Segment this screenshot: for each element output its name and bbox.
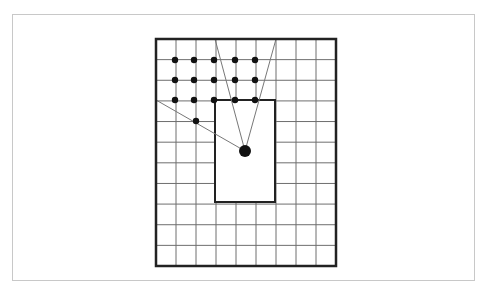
grid-diagram [0, 0, 487, 290]
visible-point [232, 97, 238, 103]
visible-point [211, 77, 217, 83]
visible-point [211, 57, 217, 63]
visible-point [172, 57, 178, 63]
visible-point [191, 57, 197, 63]
visible-point [252, 77, 258, 83]
visible-point [191, 97, 197, 103]
visible-point [252, 57, 258, 63]
visible-point [232, 77, 238, 83]
visible-point [211, 97, 217, 103]
visible-point [172, 97, 178, 103]
observer-point [239, 145, 251, 157]
visible-point [252, 97, 258, 103]
visible-point [193, 118, 199, 124]
visible-point [191, 77, 197, 83]
visible-point [172, 77, 178, 83]
visible-point [232, 57, 238, 63]
